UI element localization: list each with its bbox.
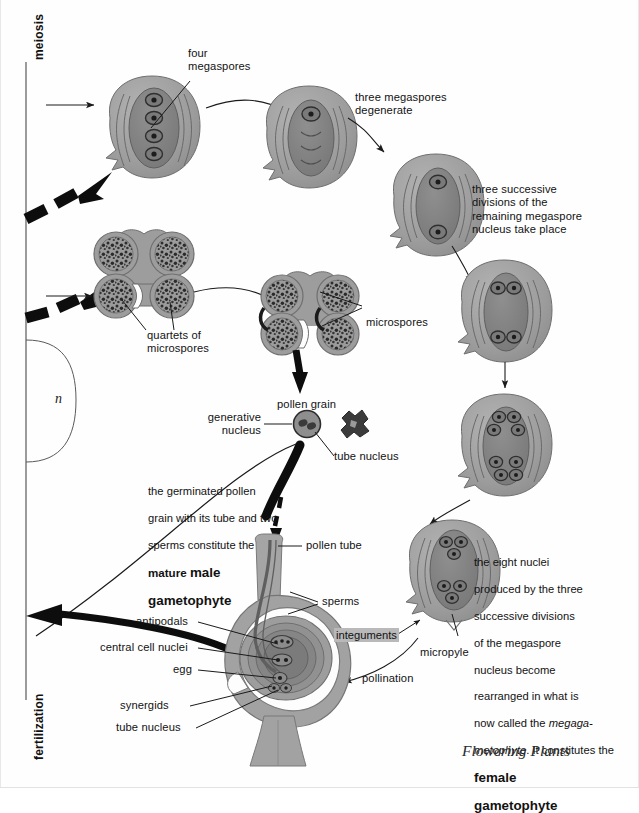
female-line-7-ital: megaga-: [549, 717, 593, 729]
label-microspores: microspores: [366, 316, 428, 329]
male-line-4-plain: mature: [148, 566, 190, 579]
label-quartets: quartets of microspores: [147, 329, 209, 356]
male-line-5-bold: gametophyte: [148, 593, 231, 608]
ovule-four-nuclei: [458, 260, 552, 362]
label-three-degenerate: three megaspores degenerate: [355, 91, 447, 118]
figure-caption: Flowering Plants: [462, 742, 570, 760]
leader-integuments: [398, 620, 420, 634]
pollen-grain-sculpted: [341, 410, 369, 438]
label-tube-nucleus-bottom: tube nucleus: [116, 721, 181, 734]
label-four-megaspores: four megaspores: [188, 47, 251, 74]
female-line-5: nucleus become: [474, 664, 555, 676]
ovule-eight-nuclei: [458, 394, 552, 496]
male-line-1: the germinated pollen: [148, 485, 256, 497]
ovule-two-nuclei: [390, 154, 484, 256]
female-line-10-bold: gametophyte: [474, 798, 557, 813]
meiosis-arrow-lower: [26, 299, 78, 318]
meiosis-arrowhead-upper: [78, 172, 112, 204]
label-pollen-grain: pollen grain: [277, 398, 336, 411]
label-egg: egg: [173, 663, 192, 676]
female-line-6: rearranged in what is: [474, 690, 578, 702]
paragraph-male-gametophyte: the germinated pollen grain with its tub…: [148, 472, 277, 608]
label-pollen-tube: pollen tube: [306, 539, 362, 552]
ovule-one-megaspore: [263, 86, 357, 188]
meiosis-arrow-upper: [26, 193, 76, 219]
male-line-3: sperms constitute the: [148, 539, 254, 551]
label-pollination: pollination: [362, 672, 413, 685]
arrow-anther-microspores: [194, 288, 272, 300]
male-line-2: grain with its tube and two: [148, 512, 277, 524]
anther-quartets: [94, 230, 194, 318]
haploid-bracket: [26, 340, 76, 462]
label-synergids: synergids: [120, 699, 169, 712]
female-line-7-plain: now called the: [474, 717, 549, 729]
female-line-9-bold: female: [474, 770, 516, 785]
male-line-4-bold: male: [190, 565, 221, 580]
label-integuments: integuments: [334, 628, 399, 642]
label-antipodals: antipodals: [136, 615, 188, 628]
label-three-successive: three successive divisions of the remain…: [472, 183, 582, 236]
label-micropyle: micropyle: [420, 646, 469, 659]
female-line-3: successive divisions: [474, 610, 575, 622]
axis-label-fertilization: fertilization: [32, 693, 46, 760]
leader-tube-nucleus-top: [315, 432, 334, 456]
female-line-4: of the megaspore: [474, 637, 561, 649]
female-line-1: the eight nuclei: [474, 556, 549, 568]
antipodal-cells: [271, 636, 293, 649]
ploidy-label: n: [55, 391, 62, 407]
label-generative-nucleus: generative nucleus: [203, 411, 261, 438]
label-tube-nucleus-top: tube nucleus: [334, 450, 399, 463]
anther-microspores: [261, 272, 359, 355]
paragraph-female-gametophyte: the eight nuclei produced by the three s…: [474, 543, 614, 813]
axis-label-meiosis: meiosis: [32, 14, 46, 60]
label-sperms: sperms: [322, 595, 359, 608]
female-line-2: produced by the three: [474, 583, 583, 595]
arrow-to-pollen-grain: [292, 350, 308, 394]
ovule-four-megaspores: [106, 76, 200, 178]
label-central-cell-nuclei: central cell nuclei: [100, 641, 188, 654]
